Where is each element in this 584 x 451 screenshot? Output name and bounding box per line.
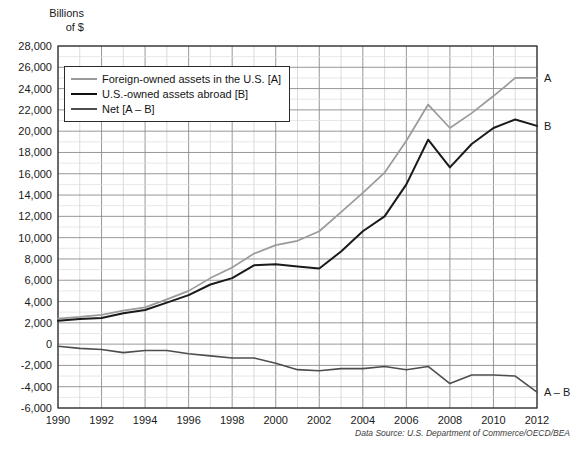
y-tick-label: 2,000	[0, 317, 52, 329]
x-tick-label: 2006	[381, 414, 431, 426]
legend-swatch-b	[71, 93, 97, 95]
y-tick-label: 12,000	[0, 210, 52, 222]
y-tick-label: 26,000	[0, 61, 52, 73]
y-tick-label: 6,000	[0, 274, 52, 286]
y-tick-label: 18,000	[0, 146, 52, 158]
x-tick-label: 2004	[338, 414, 388, 426]
series-end-label-b: B	[544, 120, 551, 132]
y-tick-label: 20,000	[0, 125, 52, 137]
x-tick-label: 1990	[33, 414, 83, 426]
y-tick-label: 10,000	[0, 232, 52, 244]
y-tick-label: 22,000	[0, 104, 52, 116]
legend-swatch-net	[71, 108, 97, 110]
chart-container: Billions of $ 28,00026,00024,00022,00020…	[0, 0, 584, 451]
x-tick-label: 1992	[77, 414, 127, 426]
x-tick-label: 1998	[207, 414, 257, 426]
y-tick-label: -4,000	[0, 381, 52, 393]
y-tick-label: 14,000	[0, 189, 52, 201]
legend-label-a: Foreign-owned assets in the U.S. [A]	[102, 73, 281, 85]
y-tick-label: -2,000	[0, 359, 52, 371]
y-tick-label: 4,000	[0, 296, 52, 308]
y-tick-label: 28,000	[0, 40, 52, 52]
legend-label-net: Net [A – B]	[102, 103, 155, 115]
legend-swatch-a	[71, 78, 97, 80]
data-source-note: Data Source: U.S. Department of Commerce…	[355, 428, 570, 438]
legend-item: U.S.-owned assets abroad [B]	[71, 86, 281, 101]
legend-item: Net [A – B]	[71, 101, 281, 116]
x-tick-label: 1996	[164, 414, 214, 426]
x-tick-label: 2000	[251, 414, 301, 426]
y-tick-label: 8,000	[0, 253, 52, 265]
x-tick-label: 2010	[468, 414, 518, 426]
series-end-label-a: A	[544, 72, 551, 84]
y-tick-label: 24,000	[0, 83, 52, 95]
chart-legend: Foreign-owned assets in the U.S. [A] U.S…	[64, 66, 290, 122]
legend-label-b: U.S.-owned assets abroad [B]	[102, 88, 248, 100]
y-tick-label: -6,000	[0, 402, 52, 414]
x-tick-label: 2008	[425, 414, 475, 426]
x-tick-label: 1994	[120, 414, 170, 426]
x-tick-label: 2012	[512, 414, 562, 426]
x-tick-label: 2002	[294, 414, 344, 426]
y-tick-label: 0	[0, 338, 52, 350]
series-end-label-ab: A – B	[544, 386, 570, 398]
legend-item: Foreign-owned assets in the U.S. [A]	[71, 71, 281, 86]
y-tick-label: 16,000	[0, 168, 52, 180]
